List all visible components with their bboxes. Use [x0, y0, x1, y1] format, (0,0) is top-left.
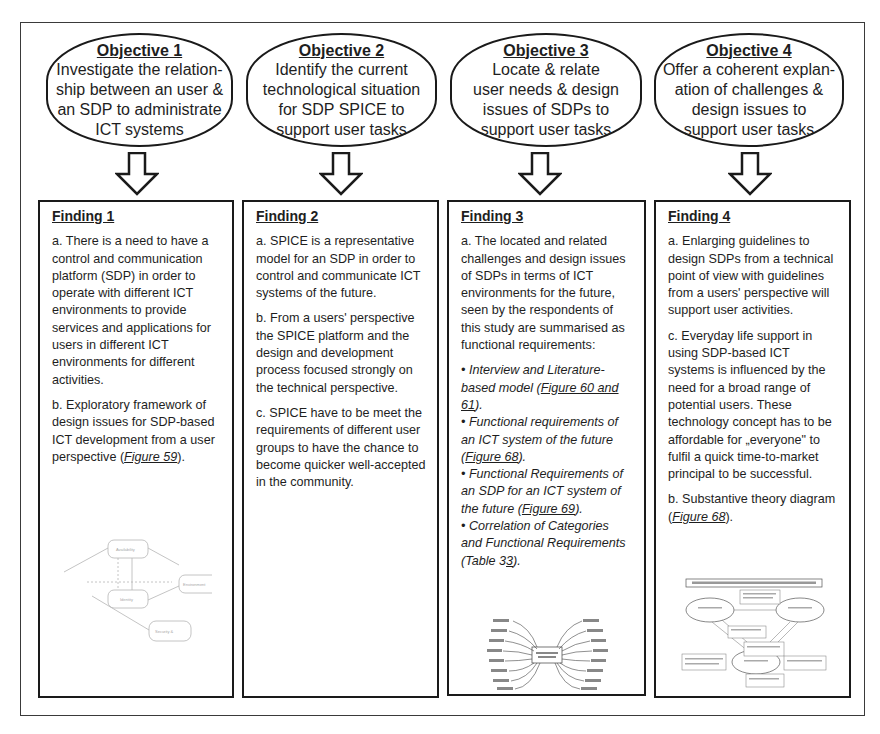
finding-3-a: a. The located and related challenges an… [461, 233, 633, 354]
finding-3-bullet-3: • Functional Requirements of an SDP for … [461, 466, 633, 518]
bullet-3-end: ). [575, 502, 583, 516]
substantive-theory-thumbnail [672, 578, 834, 688]
finding-1-title: Finding 1 [52, 208, 221, 225]
svg-text:Availability: Availability [116, 547, 135, 552]
finding-1-a: a. There is a need to have a control and… [52, 233, 221, 389]
objective-2: Objective 2 Identify the current technol… [246, 33, 437, 147]
finding-4-b: b. Substantive theory diagram (Figure 68… [668, 491, 838, 526]
down-arrow-icon [319, 152, 363, 196]
bullet-4-text: • Correlation of Categories and Function… [461, 519, 626, 568]
finding-4-a: a. Enlarging guidelines to design SDPs f… [668, 233, 838, 319]
finding-4-b-end: ). [725, 510, 733, 524]
bullet-2-end: ). [518, 450, 526, 464]
objective-1-title: Objective 1 [52, 41, 227, 60]
objective-1-text: Investigate the relation- ship between a… [52, 60, 227, 140]
finding-4-c: c. Everyday life support in using SDP-ba… [668, 328, 838, 484]
table-33-link[interactable]: 3 [506, 554, 513, 568]
finding-2-a: a. SPICE is a representative model for a… [256, 233, 426, 302]
finding-2-title: Finding 2 [256, 208, 426, 225]
finding-3-bullet-4: • Correlation of Categories and Function… [461, 518, 633, 570]
svg-text:Security &: Security & [155, 629, 174, 634]
finding-2-c: c. SPICE have to be meet the requirement… [256, 405, 426, 491]
objective-2-text: Identify the current technological situa… [252, 60, 431, 140]
objective-3-text: Locate & relate user needs & design issu… [456, 60, 636, 140]
finding-3-bullet-2: • Functional requirements of an ICT syst… [461, 414, 633, 466]
finding-3-bullet-1: • Interview and Literature-based model (… [461, 362, 633, 414]
down-arrow-icon [728, 152, 772, 196]
objective-1: Objective 1 Investigate the relation- sh… [46, 33, 233, 147]
objective-4-text: Offer a coherent explan- ation of challe… [660, 60, 838, 140]
finding-1-b: b. Exploratory framework of design issue… [52, 397, 221, 466]
finding-2-box: Finding 2 a. SPICE is a representative m… [242, 200, 439, 698]
svg-text:Environment: Environment [183, 582, 206, 587]
objective-4: Objective 4 Offer a coherent explan- ati… [654, 33, 844, 147]
objective-3: Objective 3 Locate & relate user needs &… [450, 33, 642, 147]
figure-59-link[interactable]: Figure 59 [124, 450, 177, 464]
finding-1-b-end: ). [177, 450, 185, 464]
objective-2-title: Objective 2 [252, 41, 431, 60]
figure-68-link[interactable]: Figure 68 [465, 450, 518, 464]
bullet-4-end: ). [513, 554, 521, 568]
down-arrow-icon [518, 152, 562, 196]
figure-68-link[interactable]: Figure 68 [672, 510, 725, 524]
framework-diagram-thumbnail: AvailabilityIdentity EnvironmentSecurity… [52, 528, 212, 663]
objective-4-title: Objective 4 [660, 41, 838, 60]
svg-text:Identity: Identity [120, 597, 133, 602]
down-arrow-icon [115, 152, 159, 196]
objective-3-title: Objective 3 [456, 41, 636, 60]
bullet-1-end: ). [475, 398, 483, 412]
finding-4-title: Finding 4 [668, 208, 838, 225]
finding-3-title: Finding 3 [461, 208, 633, 225]
figure-69-link[interactable]: Figure 69 [522, 502, 575, 516]
finding-2-b: b. From a users' perspective the SPICE p… [256, 310, 426, 396]
mind-map-thumbnail [485, 617, 610, 692]
